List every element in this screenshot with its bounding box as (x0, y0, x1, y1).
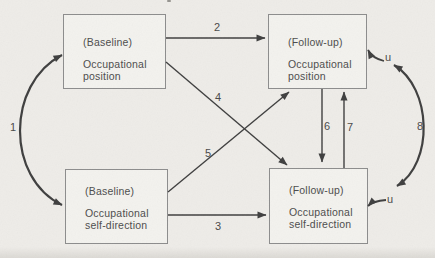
box-label: Occupational self-direction (289, 206, 371, 231)
disturbance-u-top: u (385, 52, 391, 63)
path-label-1: 1 (10, 122, 16, 133)
u-arrow-top (368, 50, 384, 61)
box-label: Occupational position (288, 58, 370, 83)
path-label-4: 4 (215, 92, 221, 103)
arrow-1-baseline-covariance (20, 55, 62, 205)
path-label-6: 6 (324, 121, 330, 132)
path-label-7: 7 (347, 122, 353, 133)
box-label: Occupational position (83, 58, 165, 83)
path-label-3: 3 (215, 221, 221, 232)
box-tag: (Baseline) (83, 36, 159, 49)
box-followup-selfdirection: (Follow-up) Occupational self-direction (269, 168, 368, 244)
box-tag: (Follow-up) (288, 36, 360, 49)
box-tag: (Follow-up) (289, 184, 361, 197)
box-followup-position: (Follow-up) Occupational position (268, 14, 367, 89)
box-baseline-selfdirection: (Baseline) Occupational self-direction (65, 169, 168, 244)
path-label-5: 5 (205, 148, 211, 159)
box-tag: (Baseline) (85, 185, 161, 198)
disturbance-u-bottom: u (387, 194, 393, 205)
box-baseline-position: (Baseline) Occupational position (63, 14, 166, 89)
box-label: Occupational self-direction (85, 207, 167, 232)
path-diagram: (Baseline) Occupational position (Follow… (0, 0, 435, 258)
path-label-8: 8 (417, 121, 423, 132)
scan-speck (167, 0, 171, 2)
path-label-2: 2 (214, 22, 220, 33)
